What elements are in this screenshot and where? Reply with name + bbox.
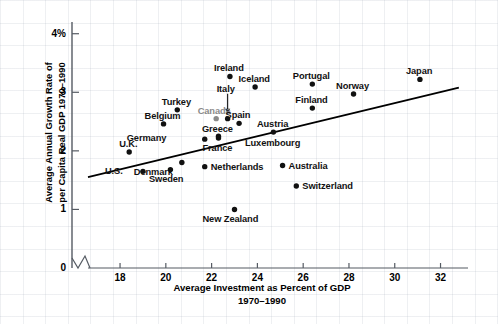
point-label-australia: Australia	[289, 161, 328, 171]
y-tick-label: 0	[40, 262, 66, 273]
point-label-sweden: Sweden	[149, 174, 184, 184]
data-point-marker	[213, 116, 218, 121]
point-label-spain: Spain	[226, 110, 251, 120]
data-point-marker	[216, 135, 221, 140]
data-point-marker	[351, 91, 356, 96]
point-label-turkey: Turkey	[162, 97, 191, 107]
point-label-ireland: Ireland	[214, 63, 244, 73]
data-point-marker	[232, 207, 237, 212]
data-point-marker	[202, 164, 207, 169]
axis-break-zigzag	[72, 256, 90, 268]
point-label-iceland: Iceland	[239, 74, 270, 84]
data-point-marker	[179, 160, 184, 165]
point-label-new-zealand: New Zealand	[203, 214, 259, 224]
x-axis-title-line1: Average Investment as Percent of GDP	[173, 282, 350, 293]
point-label-japan: Japan	[406, 66, 432, 76]
point-label-u-k: U.K.	[119, 139, 137, 149]
point-label-netherlands: Netherlands	[211, 162, 264, 172]
data-point-marker	[280, 163, 285, 168]
point-label-norway: Norway	[336, 81, 369, 91]
point-label-switzerland: Switzerland	[302, 181, 353, 191]
data-point-marker	[310, 81, 315, 86]
point-label-greece: Greece	[202, 124, 233, 134]
point-label-finland: Finland	[295, 95, 327, 105]
y-axis-title-line1: Average Annual Growth Rate of	[43, 62, 54, 202]
data-point-marker	[236, 121, 241, 126]
y-axis-title: Average Annual Growth Rate of per Capita…	[43, 33, 68, 233]
data-point-marker	[310, 105, 315, 110]
scatter-plot-figure: JapanIrelandPortugalNorwayIcelandItalyFi…	[0, 0, 498, 324]
data-point-marker	[161, 121, 166, 126]
data-point-marker	[252, 84, 257, 89]
data-point-marker	[202, 136, 207, 141]
y-axis-title-line2: per Capita Real GDP 1970–1990	[55, 33, 68, 233]
point-label-france: France	[202, 143, 232, 153]
data-point-marker	[127, 149, 132, 154]
point-label-u-s: U.S.	[105, 166, 123, 176]
x-axis-title: Average Investment as Percent of GDP 197…	[72, 282, 452, 307]
x-axis-title-line2: 1970–1990	[238, 295, 286, 306]
point-label-belgium: Belgium	[145, 111, 181, 121]
point-label-portugal: Portugal	[293, 71, 330, 81]
data-point-marker	[294, 183, 299, 188]
data-point-marker	[227, 74, 232, 79]
point-label-luxembourg: Luxembourg	[245, 138, 300, 148]
data-point-marker	[271, 129, 276, 134]
point-label-italy: Italy	[217, 84, 235, 94]
point-label-austria: Austria	[257, 119, 288, 129]
data-point-marker	[417, 77, 422, 82]
